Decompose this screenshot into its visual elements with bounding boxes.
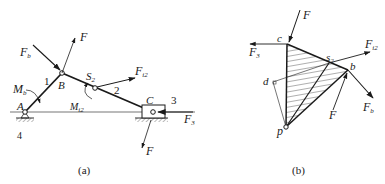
label-p: p	[276, 124, 283, 138]
label-a: A	[16, 100, 24, 112]
joint-c	[151, 110, 156, 115]
label-fb: Fb	[362, 100, 374, 115]
figure-a: F Fb 1 B S2 2 Fi2 C 3 Mb A Mi2 4 F3 F (a…	[10, 30, 195, 177]
caption-b: (b)	[292, 164, 305, 177]
label-f-top: F	[79, 30, 88, 44]
force-fb-arrow	[348, 70, 373, 98]
label-s2: s2	[326, 51, 334, 65]
label-fb: Fb	[19, 45, 31, 60]
force-f-at-b-arrow	[62, 38, 75, 73]
force-fb-arrow	[33, 45, 60, 70]
label-f-top: F	[302, 8, 311, 22]
label-fi2: Fi2	[134, 64, 148, 79]
center-of-mass-s2	[93, 86, 98, 91]
pole-p	[284, 125, 288, 129]
label-f3: F3	[183, 112, 195, 127]
label-d: d	[263, 75, 269, 87]
label-fi2: Fi2	[364, 37, 378, 52]
line-d-p	[273, 82, 286, 127]
label-c: c	[277, 32, 282, 44]
mechanism-figure: F Fb 1 B S2 2 Fi2 C 3 Mb A Mi2 4 F3 F (a…	[0, 0, 385, 184]
figure-b: F c F3 s2 Fi2 b d Fb F p (b)	[248, 8, 378, 177]
moment-mb-arrow	[26, 90, 40, 103]
force-f-at-c-arrow	[289, 10, 300, 42]
label-f-lower: F	[328, 108, 337, 122]
label-link-1: 1	[44, 75, 50, 87]
label-ground-4: 4	[17, 130, 22, 141]
slider-ground	[135, 118, 168, 122]
label-s2: S2	[86, 70, 96, 84]
label-b: b	[350, 60, 356, 72]
label-f-bottom: F	[145, 144, 154, 158]
label-mb: Mb	[12, 82, 27, 97]
label-c: C	[146, 94, 154, 106]
label-link-2: 2	[114, 84, 120, 96]
label-f3: F3	[248, 45, 260, 60]
label-link-3: 3	[171, 94, 177, 106]
caption-a: (a)	[78, 164, 91, 177]
label-b: B	[58, 79, 65, 91]
edge-p-c	[286, 44, 287, 127]
